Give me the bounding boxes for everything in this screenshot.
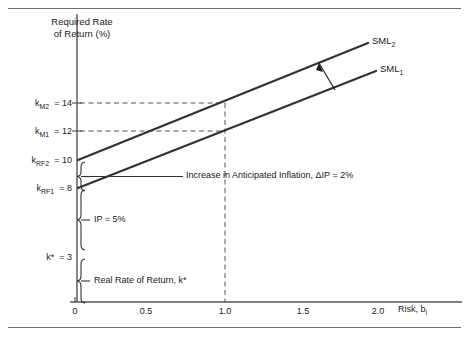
y-axis-title: Required Rate of Return (%): [36, 16, 128, 39]
y-axis-title-line1: Required Rate: [51, 16, 112, 27]
x-axis-title: Risk, bi: [398, 304, 427, 318]
y-tick-label-kM1: kM1 = 12: [0, 126, 72, 140]
x-tick-label-1.5: 1.5: [288, 306, 318, 317]
x-tick-label-0: 0: [60, 306, 90, 317]
x-tick-label-0.5: 0.5: [131, 306, 161, 317]
series-label-sml1: SML1: [380, 63, 403, 78]
y-axis-title-line2: of Return (%): [54, 28, 111, 39]
brace-ip: [77, 190, 90, 250]
x-tick-label-2.0: 2.0: [363, 306, 393, 317]
annotation-real-rate: Real Rate of Return, k*: [94, 275, 187, 286]
chart-figure: Required Rate of Return (%) kM2 = 14 kM1…: [0, 0, 469, 339]
shift-arrow-icon: [316, 63, 335, 90]
series-label-sml2: SML2: [372, 35, 395, 50]
brace-real-rate: [77, 259, 90, 303]
y-tick-label-kstar: k* = 3: [0, 252, 72, 263]
y-tick-label-kRF1: kRF1 = 8: [0, 183, 72, 197]
y-tick-label-kM2: kM2 = 14: [0, 98, 72, 112]
sml2-line: [78, 43, 368, 160]
y-tick-label-kRF2: kRF2 = 10: [0, 155, 72, 169]
annotation-inflation-premium: IP = 5%: [94, 214, 126, 225]
x-tick-label-1.0: 1.0: [210, 306, 240, 317]
annotation-inflation-shift: Increase in Anticipated Inflation, ΔIP =…: [186, 170, 353, 181]
